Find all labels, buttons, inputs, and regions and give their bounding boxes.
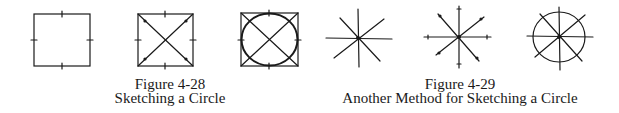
radial-lines-marked-icon <box>424 6 491 68</box>
figure-number: Figure 4-29 <box>315 77 605 91</box>
circle-through-marks-icon <box>527 7 593 70</box>
square-with-diagonals-icon <box>135 11 196 69</box>
figure-title: Sketching a Circle <box>100 91 240 105</box>
figure-4-28-caption: Figure 4-28 Sketching a Circle <box>100 77 240 105</box>
circle-in-square-icon <box>238 10 301 69</box>
figure-4-29-caption: Figure 4-29 Another Method for Sketching… <box>315 77 605 105</box>
figure-title: Another Method for Sketching a Circle <box>315 91 605 105</box>
radial-lines-icon <box>326 9 392 67</box>
figure-number: Figure 4-28 <box>100 77 240 91</box>
square-with-ticks-icon <box>31 11 93 69</box>
